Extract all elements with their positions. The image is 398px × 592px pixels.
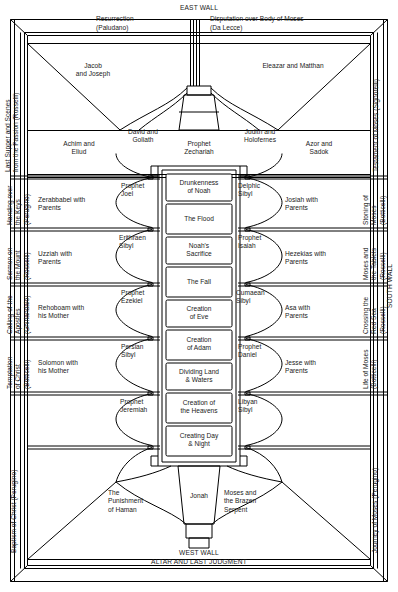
david-and-goliath-label: David and Goliath [112,128,174,145]
south-wall-label-journey-moses: Journey of Moses (Perugino) [371,388,379,553]
josiah-with-parents-label: Josiah with Parents [285,196,373,213]
jacob-and-joseph-label: Jacob and Joseph [48,62,138,79]
north-wall-label-baptism-christ: Baptism of Christ (Perugino) [10,388,18,553]
the-flood-label: The Flood [166,215,232,223]
solomon-with-his-mother-label: Solomon with his Mother [38,359,124,376]
diagram-geometry [0,0,398,592]
right-spandrel-curves [246,154,282,483]
west-wall-label-line1: WEST WALL [144,549,254,557]
prophet-ezekiel-label: Prophet Ezekiel [121,289,167,306]
resurrection-label-line2: (Paludano) [96,24,191,32]
creation-of-adam-label: Creation of Adam [166,336,232,352]
judith-and-holofernes-label: Judith and Holofernes [226,128,294,145]
east-altar-block [179,86,219,130]
west-wall-label-line2: ALTAR AND LAST JUDGMENT [119,558,279,566]
prophet-zechariah-label: Prophet Zechariah [168,140,230,157]
north-wall-label-last-supper: Last Supper and Scenes from the Passion … [4,12,21,172]
creation-of-the-heavens-label: Creation of the Heavens [164,399,234,415]
zerabbabel-with-parents-label: Zerabbabel with Parents [38,196,124,213]
delphic-sibyl-label: Delphic Sibyl [238,182,284,199]
prophet-joel-label: Prophet Joel [121,182,165,199]
resurrection-label-line1: Resurrection [96,15,191,23]
east-wall-label: EAST WALL [160,4,238,12]
achim-and-eliud-label: Achim and Eliud [44,140,114,157]
north-wall-label-calling-apostles: Calling of the Apostles (Ghirlandaio) [6,280,31,334]
erithraen-sibyl-label: Erithraen Sibyl [119,234,167,251]
south-wall-label-moses-tablets: Moses and the Tablets (Rosselli) [362,228,387,280]
moses-and-the-brazen-serpent-label: Moses and the Brazen Serpent [224,489,294,514]
jonah-label: Jonah [172,492,226,500]
south-wall-label-stoning-moses: Stoning of Moses (Botticelli) [362,175,387,225]
persian-sibyl-label: Persian Sibyl [121,343,165,360]
prophet-jeremiah-label: Prophet Jeremiah [120,398,166,415]
north-wall-label-sermon-mount: Sermon on the Mount (Rosselli) [6,228,31,280]
jesse-with-parents-label: Jesse with Parents [285,359,373,376]
sistine-chapel-plan-diagram: EAST WALL Resurrection (Paludano) Disput… [0,0,398,592]
cumaean-sibyl-label: Cumaean Sibyl [236,289,284,306]
hezekias-with-parents-label: Hezekias with Parents [285,250,373,267]
the-punishment-of-haman-label: The Punishment of Haman [108,489,170,514]
eleazar-and-matthan-label: Eleazar and Matthan [228,62,358,70]
azor-and-sadok-label: Azor and Sadok [286,140,352,157]
prophet-daniel-label: Prophet Daniel [238,343,284,360]
libyan-sibyl-label: Libyan Sibyl [238,398,284,415]
disputation-label-line2: (Da Lecce) [210,24,370,32]
south-wall-marker: SOUTH WALL [386,238,394,308]
dividing-land-and-waters-label: Dividing Land & Waters [164,368,234,384]
rehoboam-with-his-mother-label: Rehoboam with his Mother [38,304,124,321]
prophet-isaiah-label: Prophet Isaiah [238,234,284,251]
south-wall-label-crossing-red-sea: Crossing the Red Sea (Rosselli) [362,282,387,334]
uzziah-with-parents-label: Uzziah with Parents [38,250,124,267]
west-altar-block [178,466,220,548]
drunkenness-of-noah-label: Drunkenness of Noah [166,179,232,195]
noahs-sacrifice-label: Noah's Sacrifice [166,242,232,258]
the-fall-label: The Fall [166,278,232,286]
north-wall-label-temptation-christ: Temptation of Christ (Botticelli) [6,337,31,389]
north-wall-label-handing-keys: Handing over the Keys (Perugino) [6,173,31,225]
asa-with-parents-label: Asa with Parents [285,304,373,321]
pendentive-curves-top [120,88,278,130]
creation-of-eve-label: Creation of Eve [166,305,232,321]
creating-day-and-night-label: Creating Day & Night [164,432,234,448]
south-wall-label-life-of-moses: Life of Moses (Botticelli) [362,335,379,389]
disputation-label-line1: Disputation over Body of Moses [210,15,370,23]
south-wall-label-testament-moses: Testament of Moses (Signorelli) [372,10,380,172]
